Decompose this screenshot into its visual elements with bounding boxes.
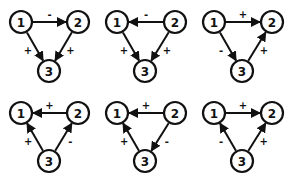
edge-3-to-1: + <box>24 123 43 150</box>
node-2: 2 <box>67 11 89 33</box>
edge-2-to-1: + <box>129 100 163 114</box>
node-3: 3 <box>38 60 60 82</box>
node-label: 2 <box>74 107 82 121</box>
edge-sign-label: + <box>66 45 74 56</box>
edge-1-to-2: - <box>33 9 66 23</box>
edge-1-to-3: - <box>219 32 236 60</box>
edge-3-to-1: - <box>219 123 236 150</box>
node-2: 2 <box>164 11 186 33</box>
edge-sign-label: + <box>120 136 128 147</box>
node-3: 3 <box>38 150 60 172</box>
edge-sign-label: + <box>142 100 150 111</box>
edge-sign-label: + <box>120 45 128 56</box>
edge-1-to-3: + <box>120 32 139 60</box>
node-label: 3 <box>141 65 149 79</box>
node-3: 3 <box>231 60 253 82</box>
node-3: 3 <box>134 60 156 82</box>
triad-4: ++-123 <box>10 100 89 173</box>
node-label: 2 <box>74 16 82 30</box>
edge-sign-label: - <box>144 9 148 20</box>
node-1: 1 <box>106 102 128 124</box>
edge-3-to-2: - <box>55 123 72 150</box>
node-2: 2 <box>67 102 89 124</box>
node-1: 1 <box>203 11 225 33</box>
edge-sign-label: - <box>219 45 223 56</box>
triad-6: +-+123 <box>203 100 283 173</box>
edge-sign-label: - <box>219 136 223 147</box>
edge-sign-label: + <box>239 100 247 111</box>
node-1: 1 <box>106 11 128 33</box>
edge-2-to-3: + <box>55 32 74 60</box>
triad-3: +-+123 <box>203 9 283 83</box>
triad-2: -++123 <box>106 9 186 83</box>
edge-1-to-2: + <box>226 9 260 23</box>
triad-5: ++-123 <box>106 100 186 173</box>
edge-sign-label: - <box>165 136 169 147</box>
edge-sign-label: + <box>24 136 32 147</box>
edge-sign-label: + <box>163 45 171 56</box>
edge-3-to-2: + <box>248 32 268 61</box>
node-1: 1 <box>10 11 32 33</box>
node-label: 2 <box>171 107 179 121</box>
node-2: 2 <box>164 102 186 124</box>
node-label: 1 <box>17 107 25 121</box>
node-2: 2 <box>261 102 283 124</box>
triad-1: -++123 <box>10 9 89 83</box>
node-label: 2 <box>268 16 276 30</box>
edge-3-to-1: + <box>120 123 139 150</box>
node-label: 2 <box>171 16 179 30</box>
edge-sign-label: + <box>260 45 268 56</box>
edge-sign-label: + <box>24 45 32 56</box>
node-label: 1 <box>210 107 218 121</box>
node-label: 2 <box>268 107 276 121</box>
edge-2-to-3: + <box>151 32 171 61</box>
node-3: 3 <box>134 150 156 172</box>
edge-1-to-3: + <box>24 32 43 60</box>
node-label: 1 <box>210 16 218 30</box>
edge-sign-label: + <box>239 9 247 20</box>
edge-2-to-1: - <box>129 9 163 23</box>
node-label: 3 <box>45 155 53 169</box>
edge-sign-label: - <box>47 9 51 20</box>
node-2: 2 <box>261 11 283 33</box>
node-1: 1 <box>203 102 225 124</box>
node-3: 3 <box>231 150 253 172</box>
edge-1-to-2: + <box>226 100 260 114</box>
signed-triads-diagram: -++123-++123+-+123++-123++-123+-+123 <box>0 0 293 183</box>
edge-sign-label: + <box>45 100 53 111</box>
edge-sign-label: - <box>68 136 72 147</box>
node-label: 3 <box>141 155 149 169</box>
node-label: 3 <box>238 155 246 169</box>
edge-sign-label: + <box>260 136 268 147</box>
edge-3-to-2: + <box>248 123 268 151</box>
node-label: 1 <box>17 16 25 30</box>
node-label: 1 <box>113 107 121 121</box>
node-label: 3 <box>45 65 53 79</box>
node-1: 1 <box>10 102 32 124</box>
node-label: 3 <box>238 65 246 79</box>
edge-2-to-3: - <box>151 123 169 151</box>
edge-2-to-1: + <box>33 100 66 114</box>
node-label: 1 <box>113 16 121 30</box>
